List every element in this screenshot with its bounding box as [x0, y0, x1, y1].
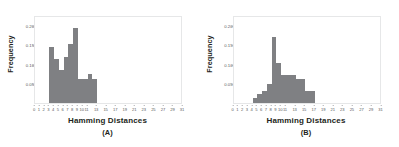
chart-panel-a: Frequency 0.050.100.150.20 0123456789101… — [0, 0, 200, 147]
x-tick-mark — [251, 105, 252, 107]
x-tick-mark — [58, 105, 59, 107]
histogram-bar — [310, 91, 315, 103]
x-tick-mark — [38, 105, 39, 107]
x-tick-mark — [72, 105, 73, 107]
x-tick-label: 8 — [270, 107, 272, 112]
x-tick-mark — [81, 105, 82, 107]
x-tick-label: 21 — [331, 107, 335, 112]
x-tick-label: 31 — [180, 107, 184, 112]
x-tick-mark — [115, 105, 116, 107]
x-tick-label: 5 — [57, 107, 59, 112]
x-tick-label: 0 — [33, 107, 35, 112]
x-tick-mark — [280, 105, 281, 107]
x-tick-mark — [232, 105, 233, 107]
x-axis-label-b: Hamming Distances — [219, 116, 394, 125]
x-tick-label: 17 — [311, 107, 315, 112]
x-tick-mark — [134, 105, 135, 107]
plot-frame-b — [233, 16, 381, 104]
x-tick-label: 2 — [241, 107, 243, 112]
x-tick-label: 27 — [359, 107, 363, 112]
x-axis-ticks-a: 0123456789101113151719212325272931 — [34, 107, 182, 115]
x-tick-label: 9 — [274, 107, 276, 112]
x-tick-label: 11 — [283, 107, 287, 112]
x-tick-mark — [172, 105, 173, 107]
x-tick-label: 31 — [378, 107, 382, 112]
x-tick-label: 6 — [260, 107, 262, 112]
x-tick-mark — [86, 105, 87, 107]
x-tick-mark — [96, 105, 97, 107]
x-tick-label: 23 — [142, 107, 146, 112]
x-tick-mark — [342, 105, 343, 107]
x-tick-label: 1 — [38, 107, 40, 112]
figure-container: Frequency 0.050.100.150.20 0123456789101… — [0, 0, 399, 147]
x-tick-label: 10 — [278, 107, 282, 112]
x-tick-mark — [77, 105, 78, 107]
plot-area-a — [35, 17, 181, 103]
x-tick-mark — [266, 105, 267, 107]
x-tick-label: 3 — [246, 107, 248, 112]
x-tick-label: 7 — [66, 107, 68, 112]
x-tick-label: 2 — [42, 107, 44, 112]
x-tick-label: 13 — [94, 107, 98, 112]
x-tick-mark — [105, 105, 106, 107]
panel-caption-a: (A) — [20, 128, 195, 137]
x-tick-label: 19 — [123, 107, 127, 112]
x-tick-mark — [285, 105, 286, 107]
x-tick-label: 27 — [161, 107, 165, 112]
x-tick-label: 19 — [321, 107, 325, 112]
x-tick-mark — [247, 105, 248, 107]
x-tick-mark — [371, 105, 372, 107]
histogram-bar — [92, 79, 97, 103]
x-tick-label: 13 — [292, 107, 296, 112]
x-tick-mark — [270, 105, 271, 107]
x-tick-label: 1 — [236, 107, 238, 112]
x-axis-ticks-b: 0123456789101113151719212325272931 — [233, 107, 381, 115]
x-tick-mark — [67, 105, 68, 107]
x-tick-mark — [323, 105, 324, 107]
x-tick-label: 5 — [255, 107, 257, 112]
x-tick-label: 7 — [265, 107, 267, 112]
x-tick-mark — [304, 105, 305, 107]
x-tick-label: 10 — [80, 107, 84, 112]
x-tick-mark — [313, 105, 314, 107]
x-tick-mark — [242, 105, 243, 107]
x-tick-label: 0 — [231, 107, 233, 112]
x-tick-label: 17 — [113, 107, 117, 112]
x-tick-mark — [34, 105, 35, 107]
x-tick-mark — [332, 105, 333, 107]
x-tick-label: 25 — [151, 107, 155, 112]
x-tick-mark — [163, 105, 164, 107]
x-tick-label: 29 — [170, 107, 174, 112]
x-tick-label: 4 — [251, 107, 253, 112]
plot-area-b — [234, 17, 380, 103]
x-tick-label: 8 — [71, 107, 73, 112]
x-tick-mark — [48, 105, 49, 107]
x-tick-label: 25 — [350, 107, 354, 112]
x-tick-mark — [256, 105, 257, 107]
x-tick-mark — [144, 105, 145, 107]
x-tick-mark — [294, 105, 295, 107]
x-tick-mark — [62, 105, 63, 107]
x-tick-mark — [237, 105, 238, 107]
x-tick-mark — [352, 105, 353, 107]
x-tick-mark — [153, 105, 154, 107]
x-tick-mark — [275, 105, 276, 107]
x-tick-label: 29 — [369, 107, 373, 112]
x-tick-mark — [53, 105, 54, 107]
x-tick-label: 15 — [103, 107, 107, 112]
x-tick-label: 6 — [62, 107, 64, 112]
x-tick-mark — [124, 105, 125, 107]
x-tick-mark — [261, 105, 262, 107]
x-tick-mark — [43, 105, 44, 107]
x-tick-label: 15 — [302, 107, 306, 112]
x-tick-label: 9 — [76, 107, 78, 112]
x-tick-label: 4 — [52, 107, 54, 112]
chart-panel-b: Frequency 0.050.100.150.20 0123456789101… — [200, 0, 399, 147]
x-tick-mark — [380, 105, 381, 107]
x-tick-label: 11 — [84, 107, 88, 112]
x-tick-label: 23 — [340, 107, 344, 112]
x-tick-mark — [361, 105, 362, 107]
x-tick-mark — [182, 105, 183, 107]
plot-frame-a — [34, 16, 182, 104]
x-axis-label-a: Hamming Distances — [20, 116, 195, 125]
